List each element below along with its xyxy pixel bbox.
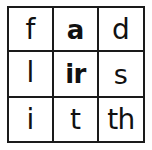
grid-cell-r1c3[interactable]: d: [99, 8, 143, 52]
grid-cell-r2c1[interactable]: l: [9, 52, 54, 98]
grid-cell-r2c2[interactable]: ir: [54, 52, 99, 98]
grid-cell-r2c3[interactable]: s: [99, 52, 143, 98]
letter-grid: f a d l ir s i t th: [7, 6, 145, 143]
letter-d: d: [112, 16, 130, 44]
grid-cell-r3c1[interactable]: i: [9, 98, 54, 141]
letter-i: i: [27, 106, 35, 134]
letter-l: l: [27, 59, 35, 87]
letter-s: s: [114, 61, 128, 88]
grid-cell-r3c2[interactable]: t: [54, 98, 99, 141]
grapheme-th: th: [107, 106, 135, 134]
grid-cell-r1c1[interactable]: f: [9, 8, 54, 52]
phonics-grid-page: f a d l ir s i t th: [0, 0, 152, 150]
letter-f: f: [25, 16, 35, 44]
grid-cell-r1c2[interactable]: a: [54, 8, 99, 52]
letter-a: a: [67, 17, 85, 43]
grid-cell-r3c3[interactable]: th: [99, 98, 143, 141]
grapheme-ir: ir: [65, 61, 86, 87]
letter-t: t: [70, 106, 81, 134]
